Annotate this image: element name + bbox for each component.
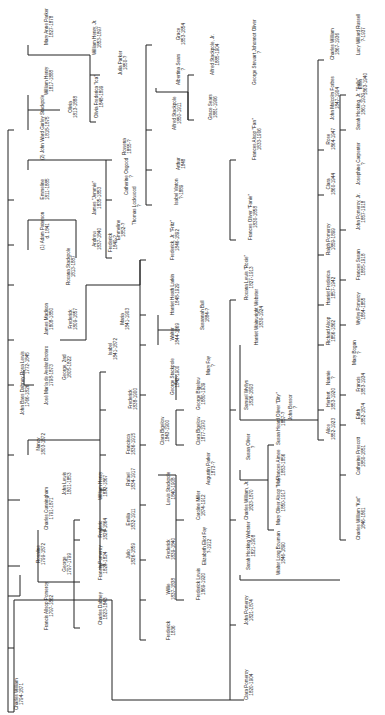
person-dates: 1853-1854 bbox=[181, 23, 186, 45]
person-node-george-stewart-johonnot-oliver: George Stewart Johonnot Oliver? bbox=[252, 19, 262, 85]
person-dates: ? bbox=[251, 434, 256, 460]
person-dates: 1794-1871 bbox=[19, 678, 24, 710]
person-dates: 1823-1870 bbox=[249, 481, 254, 520]
person-dates: 1847-1904 bbox=[335, 76, 340, 120]
person-node-rafael: Rafael1834-1917 bbox=[126, 468, 136, 490]
person-dates: 1797-1799 bbox=[67, 553, 72, 575]
person-dates: 1818-1875 bbox=[45, 95, 50, 160]
person-node-harriet-wainwright-webster: Harriet Wainwright Webster1830-1924 bbox=[254, 289, 264, 345]
family-tree-diagram: Charles William1794-1871Francis Allsop P… bbox=[0, 0, 385, 715]
person-node-charles-dabney: Charles Dabney1823-1843 bbox=[98, 592, 108, 625]
person-node-josephine-carpenter: Josephine Carpenter? bbox=[356, 142, 366, 185]
person-node-rowena: Rowena1855-? bbox=[122, 138, 132, 155]
person-node-susan-heard-oliver-dity: Susan Heard Oliver "Dity"1857-? bbox=[276, 392, 286, 445]
person-dates: 1837-1838 bbox=[171, 578, 176, 600]
person-node-susan-oliver: Susan Oliver? bbox=[246, 434, 256, 460]
person-node-grace: Grace1853-1854 bbox=[176, 23, 186, 45]
person-node-emilia: Emilia1832-1911 bbox=[126, 508, 136, 530]
person-dates: ?-1889 bbox=[179, 179, 184, 205]
person-dates: 1855-1918 bbox=[361, 249, 366, 280]
person-node-frederick-1809: Frederick1809-1857 bbox=[68, 308, 78, 330]
person-node-mary-ann-parker: Mary Anne Parker1827-1878 bbox=[44, 8, 54, 45]
person-dates: 1830-1924 bbox=[259, 289, 264, 345]
person-node-sarah-hocking-webster: Sarah Hocking Webster1821-1908 bbox=[246, 522, 256, 570]
person-node-alfred-stackpole-jr: Alfred Stackpole, Jr.1885-1904 bbox=[210, 34, 220, 75]
person-dates: 1853-1934 bbox=[361, 373, 366, 395]
person-node-frances-oliver-fanie: Frances Oliver "Fanie"1830-1858 bbox=[248, 194, 258, 240]
person-node-herbert: Herbert1853-1920 bbox=[326, 388, 336, 410]
person-node-albertina-sears: Albertina Sears? bbox=[176, 54, 186, 85]
person-dates: 1853-1897 bbox=[97, 20, 102, 55]
person-dates: ? bbox=[211, 356, 216, 375]
person-node-francis: Francis1853-1934 bbox=[356, 373, 366, 395]
person-dates: 1854-1855 bbox=[361, 292, 366, 325]
person-node-james-jimmie: James "Jemmie"1835-1853 bbox=[92, 181, 102, 215]
person-node-arthur: Arthur1848 bbox=[176, 157, 186, 170]
person-dates: ? bbox=[361, 142, 366, 185]
person-node-charles-william-1867: Charles William1867-1936 bbox=[330, 28, 340, 60]
person-dates: 1842-1900 bbox=[175, 358, 180, 395]
person-node-catherine-prescott: Catherine Prescott1850-1851 bbox=[356, 437, 366, 475]
person-node-francisca: Francisca1836-1915 bbox=[126, 433, 136, 455]
person-dates: 1803-1872 bbox=[41, 433, 46, 455]
person-node-maria: Maria1841-1903 bbox=[120, 308, 130, 330]
person-dates: 1823-1824 bbox=[103, 545, 108, 580]
person-dates: 1840-1908 bbox=[171, 472, 176, 505]
person-node-john-malcolm-forbes: John Malcolm Forbes1847-1904 bbox=[330, 76, 340, 120]
person-dates: 1813-1888 bbox=[73, 96, 78, 118]
person-dates: 1881-1906 bbox=[213, 94, 218, 120]
person-dates: 1867-1936 bbox=[335, 28, 340, 60]
person-node-frances-susan: Frances Susan1855-1918 bbox=[356, 249, 366, 280]
person-dates: 1853-1920 bbox=[331, 388, 336, 410]
person-node-clara-bigelow-1877: Clara Bigelow1877-1970 bbox=[196, 417, 206, 445]
person-dates: 1836 bbox=[171, 621, 176, 640]
person-node-john-pomeroy: John Pomeroy1821-1874 bbox=[244, 595, 254, 625]
person-node-rosa-lewis: Rosa Lewis1772-1845 bbox=[20, 351, 30, 375]
person-dates: 1885-1904 bbox=[215, 34, 220, 75]
person-dates: ? bbox=[293, 394, 298, 420]
person-dates: 1841-1903 bbox=[125, 308, 130, 330]
person-node-julio: Julio1826-1859 bbox=[126, 543, 136, 565]
person-dates: 1827-1878 bbox=[49, 8, 54, 45]
person-node-thomas-lockwood: Thomas Lockwood? bbox=[132, 186, 142, 225]
person-dates: 1835-1853 bbox=[97, 181, 102, 215]
person-dates: d. 1841 bbox=[45, 212, 50, 250]
person-dates: 1850-1917 bbox=[281, 476, 286, 525]
person-dates: 1850-1911 bbox=[177, 97, 182, 130]
person-node-john-bass-dabney: John Bass Dabney1766-1826 bbox=[20, 376, 30, 415]
person-node-rosaline: Rosaline1799-1872 bbox=[36, 543, 46, 565]
person-node-george-bigelow: George Bigelow1880-1939 bbox=[196, 377, 206, 410]
person-node-julia-parker: Julia Parker1850-? bbox=[118, 51, 128, 75]
person-dates: 1832-1911 bbox=[131, 508, 136, 530]
person-dates: 1844-1869 bbox=[175, 323, 180, 345]
person-dates: 1848 bbox=[181, 157, 186, 170]
person-node-francis-allsop: Francis Allsop Pomeroy1797-1862 bbox=[44, 582, 54, 630]
person-dates: ? bbox=[137, 186, 142, 225]
person-dates: 1848-1899 bbox=[99, 75, 104, 118]
person-dates: 1830-1858 bbox=[253, 194, 258, 240]
person-node-clara-bigelow-1843: Clara Bigelow1843-1900 bbox=[160, 417, 170, 445]
person-node-william-henry-jr: William Henry, Jr.1853-1897 bbox=[92, 20, 102, 55]
person-node-samuel-wyllys: Samuel Wyllys1826-1893 bbox=[244, 380, 254, 410]
person-dates: 1832-1867 bbox=[103, 472, 108, 500]
person-dates: 1857-? bbox=[281, 392, 286, 445]
person-node-adam-paterson: (1) Adam Patersond. 1841 bbox=[40, 212, 50, 250]
person-node-olivia-frederica: Olivia Frederica "Ica"1848-1899 bbox=[94, 75, 104, 118]
person-node-frederick-1849: Frederick1849-? bbox=[108, 233, 118, 252]
person-dates: 1834-1917 bbox=[131, 468, 136, 490]
person-dates: 1820-1904 bbox=[249, 669, 254, 700]
person-dates: 1799-1872 bbox=[41, 543, 46, 565]
person-dates: 1852-1923 bbox=[331, 418, 336, 440]
person-dates: 1826-1859 bbox=[131, 543, 136, 565]
person-dates: 1856-1862 bbox=[331, 317, 336, 345]
person-dates: 1798-1873 bbox=[49, 346, 54, 405]
person-node-alice: Alice1852-1923 bbox=[326, 418, 336, 440]
person-node-sarah-hocking-jr-sally: Sarah Hocking, Jr. "Sally"1861-1930 bbox=[356, 78, 366, 130]
person-dates: 1861-1930 bbox=[361, 78, 366, 130]
person-node-james-madison: James Madison1808-1850 bbox=[44, 303, 54, 335]
person-node-charles-william-kat: Charles William "Kat"1846-1861 bbox=[356, 497, 366, 540]
person-dates: 1880-1939 bbox=[201, 377, 206, 410]
person-node-mary-oliver-alsop-may: Mary Oliver Alsop "May"1850-1917 bbox=[276, 476, 286, 525]
person-node-mary-bogan: Mary Bogan? bbox=[352, 340, 362, 365]
person-node-charles-william-jr: Charles William, Jr.1823-1870 bbox=[244, 481, 254, 520]
